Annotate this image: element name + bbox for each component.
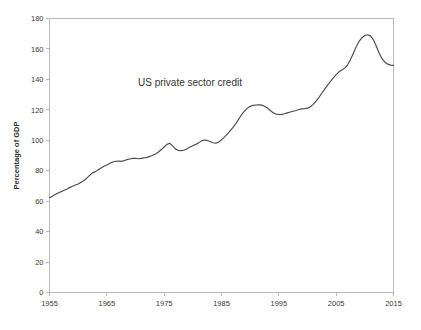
y-tick-label: 20 [35, 258, 43, 267]
x-tick-label: 1995 [270, 299, 287, 308]
x-tick-label: 1975 [156, 299, 173, 308]
x-tick-label: 2005 [328, 299, 345, 308]
y-tick-label: 0 [39, 288, 43, 297]
y-tick-label: 40 [35, 227, 43, 236]
y-tick-label: 120 [31, 106, 44, 115]
x-tick-label: 1985 [213, 299, 230, 308]
chart-figure: 020406080100120140160180 195519651975198… [0, 0, 421, 330]
chart-background [0, 0, 421, 330]
y-tick-label: 140 [31, 75, 44, 84]
y-tick-label: 100 [31, 136, 44, 145]
line-chart: 020406080100120140160180 195519651975198… [0, 0, 421, 330]
y-tick-label: 180 [31, 14, 44, 23]
series-annotation-label: US private sector credit [138, 77, 242, 88]
x-tick-label: 1965 [98, 299, 115, 308]
y-tick-label: 160 [31, 45, 44, 54]
y-tick-label: 80 [35, 166, 43, 175]
x-tick-label: 1955 [41, 299, 58, 308]
x-tick-label: 2015 [385, 299, 402, 308]
y-tick-label: 60 [35, 197, 43, 206]
y-axis-title: Percentage of GDP [12, 122, 21, 190]
